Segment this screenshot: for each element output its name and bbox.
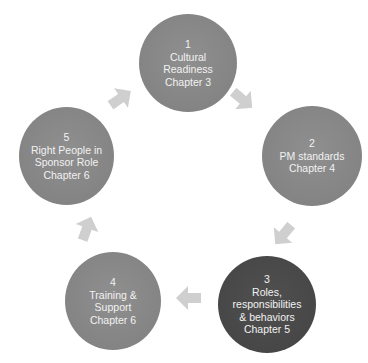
node-line: Chapter 6 xyxy=(43,169,89,182)
node-line: Chapter 5 xyxy=(244,323,290,336)
node-line: Chapter 4 xyxy=(289,162,335,175)
arrow-down-left-icon xyxy=(265,217,302,254)
node-line: & behaviors xyxy=(239,311,294,324)
node-line: Support xyxy=(95,301,132,314)
node-number: 2 xyxy=(309,137,315,150)
node-4-training-support: 4 Training & Support Chapter 6 xyxy=(65,252,161,350)
node-number: 5 xyxy=(64,131,70,144)
node-line: PM standards xyxy=(280,150,345,163)
arrow-left-icon xyxy=(175,285,201,311)
node-3-roles-responsibilities: 3 Roles, responsibilities & behaviors Ch… xyxy=(218,256,316,353)
node-line: Roles, xyxy=(252,286,282,299)
arrow-up-right-icon xyxy=(103,80,139,116)
node-line: Training & xyxy=(89,289,136,302)
node-5-right-people-sponsor: 5 Right People in Sponsor Role Chapter 6 xyxy=(19,107,114,205)
node-number: 1 xyxy=(185,38,191,51)
node-number: 3 xyxy=(264,273,270,286)
node-1-cultural-readiness: 1 Cultural Readiness Chapter 3 xyxy=(139,14,237,112)
node-line: Right People in xyxy=(31,144,102,157)
node-number: 4 xyxy=(110,276,116,289)
cycle-diagram: 1 Cultural Readiness Chapter 3 2 PM stan… xyxy=(0,0,368,363)
node-line: Sponsor Role xyxy=(35,156,99,169)
node-line: Cultural xyxy=(170,51,206,64)
node-line: Chapter 3 xyxy=(165,76,211,89)
node-line: Chapter 6 xyxy=(90,314,136,327)
node-line: responsibilities xyxy=(233,298,302,311)
node-2-pm-standards: 2 PM standards Chapter 4 xyxy=(262,106,362,206)
arrow-up-icon xyxy=(70,211,103,244)
node-line: Readiness xyxy=(163,63,213,76)
